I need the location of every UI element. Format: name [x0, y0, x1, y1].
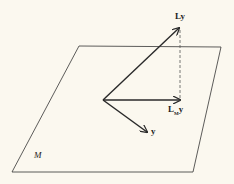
label-lmy: LMy: [168, 104, 183, 116]
vector-ly: [103, 28, 179, 100]
label-lmy-tail: y: [179, 104, 184, 114]
vector-y: [103, 100, 147, 132]
label-ly: Ly: [175, 11, 185, 21]
label-m: M: [34, 150, 42, 160]
label-y: y: [151, 126, 156, 136]
